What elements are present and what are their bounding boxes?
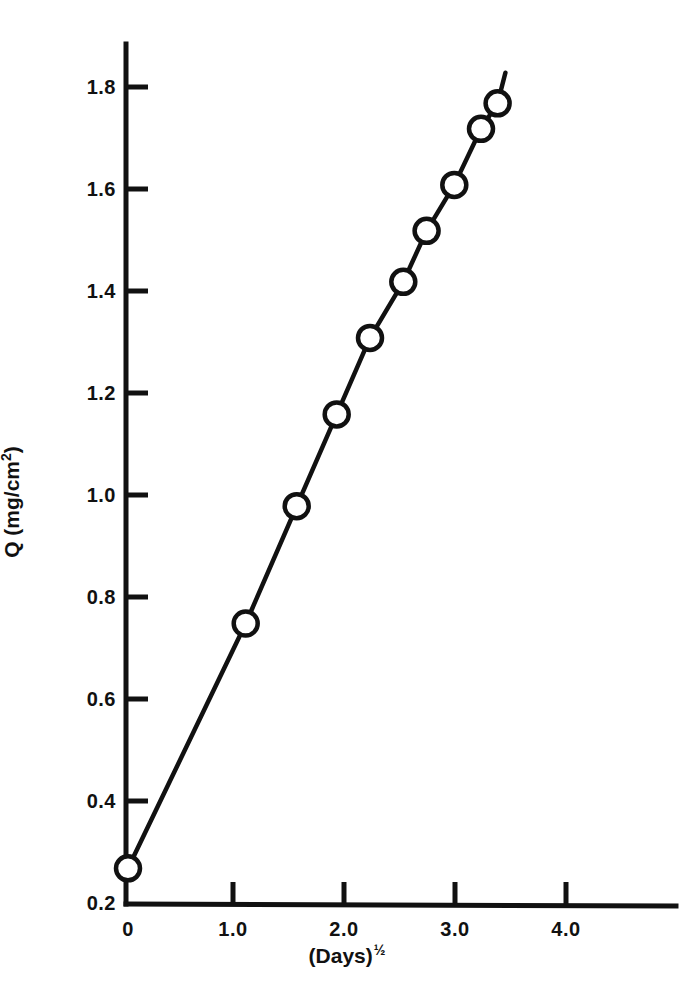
data-point xyxy=(415,219,439,243)
y-axis-title-exponent: 2 xyxy=(0,453,14,461)
data-point xyxy=(325,402,349,426)
y-tick-label-0.4: 0.4 xyxy=(58,790,116,813)
y-axis-title-base: Q (mg/cm xyxy=(0,461,23,558)
x-axis-title-base: (Days) xyxy=(309,944,373,967)
y-tick-label-1.0: 1.0 xyxy=(58,484,116,507)
y-axis-title: Q (mg/cm2) xyxy=(0,446,24,558)
data-point xyxy=(486,91,510,115)
x-tick-label-1.0: 1.0 xyxy=(218,918,247,941)
x-axis-title-exponent: ½ xyxy=(374,942,386,958)
figure-root: 1.8 1.6 1.4 1.2 1.0 0.8 0.6 0.4 0.2 0 1.… xyxy=(0,0,693,1006)
y-tick-label-1.6: 1.6 xyxy=(58,178,116,201)
x-tick-marks xyxy=(233,882,566,904)
data-point xyxy=(234,612,258,636)
y-axis-title-suffix: ) xyxy=(0,446,23,453)
y-tick-label-0.6: 0.6 xyxy=(58,688,116,711)
y-tick-label-1.4: 1.4 xyxy=(58,280,116,303)
data-point xyxy=(391,270,415,294)
x-tick-label-4.0: 4.0 xyxy=(551,918,580,941)
data-point xyxy=(116,856,140,880)
data-point xyxy=(442,173,466,197)
axes-group xyxy=(126,44,676,906)
data-markers xyxy=(116,91,510,880)
x-axis-line xyxy=(126,904,676,906)
y-tick-marks xyxy=(126,87,148,801)
data-point xyxy=(358,326,382,350)
x-tick-label-3.0: 3.0 xyxy=(440,918,469,941)
y-tick-label-1.2: 1.2 xyxy=(58,382,116,405)
y-tick-label-0.2: 0.2 xyxy=(58,892,116,915)
x-axis-title: (Days)½ xyxy=(309,944,386,968)
x-tick-label-0: 0 xyxy=(122,918,134,941)
y-tick-label-0.8: 0.8 xyxy=(58,586,116,609)
y-tick-label-1.8: 1.8 xyxy=(58,76,116,99)
data-point xyxy=(469,117,493,141)
x-tick-label-2.0: 2.0 xyxy=(329,918,358,941)
data-point xyxy=(285,494,309,518)
